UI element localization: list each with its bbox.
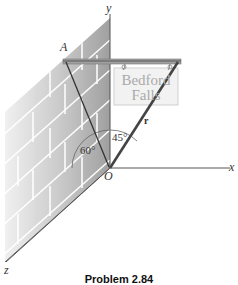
horizontal-bar [63,59,181,64]
sign-text-line1: Bedford [114,73,178,87]
brick-wall [0,18,110,262]
angle-45-label: 45° [112,132,127,143]
angle-60-label: 60° [80,145,95,156]
vector-r-label: r [144,116,148,126]
x-axis-label: x [229,161,234,173]
y-axis-label: y [106,2,111,14]
figure-caption: Problem 2.84 [0,273,238,285]
point-a-label: A [60,41,67,53]
origin-label: O [104,170,113,182]
sign-text-line2: Falls [114,88,178,102]
